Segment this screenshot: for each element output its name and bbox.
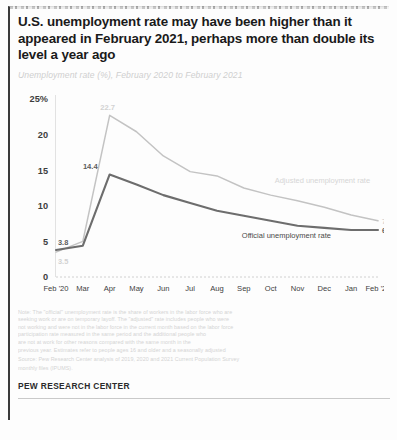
chart-title: U.S. unemployment rate may have been hig… bbox=[18, 14, 384, 64]
source-line-2: monthly files (IPUMS). bbox=[18, 365, 380, 373]
note-line-2: not working and were not in the labor fo… bbox=[18, 324, 380, 332]
svg-text:14.4: 14.4 bbox=[83, 162, 99, 171]
svg-text:5: 5 bbox=[43, 236, 48, 246]
note-line-3: participation rate measured in the same … bbox=[18, 331, 380, 339]
y-axis: 0510152025% bbox=[30, 94, 378, 282]
svg-text:Adjusted unemployment rate: Adjusted unemployment rate bbox=[275, 176, 370, 185]
svg-text:Sep: Sep bbox=[237, 284, 251, 293]
x-axis: Feb '20MarAprMayJunJulAugSepOctNovDecJan… bbox=[43, 284, 384, 293]
svg-text:Official unemployment rate: Official unemployment rate bbox=[242, 230, 331, 239]
svg-text:0: 0 bbox=[43, 272, 48, 282]
svg-text:Dec: Dec bbox=[318, 284, 332, 293]
scan-noise-strip bbox=[10, 6, 389, 9]
chart-page: U.S. unemployment rate may have been hig… bbox=[0, 0, 397, 440]
brand-label: PEW RESEARCH CENTER bbox=[18, 381, 384, 391]
svg-text:3.8: 3.8 bbox=[58, 237, 68, 246]
svg-text:Jun: Jun bbox=[157, 284, 169, 293]
chart-content: U.S. unemployment rate may have been hig… bbox=[18, 14, 384, 399]
line-chart: 0510152025% Feb '20MarAprMayJunJulAugSep… bbox=[18, 87, 384, 299]
svg-text:3.5: 3.5 bbox=[58, 257, 68, 266]
svg-text:15: 15 bbox=[38, 165, 48, 175]
svg-text:Oct: Oct bbox=[265, 284, 278, 293]
source-line-1: Source: Pew Research Center analysis of … bbox=[18, 356, 380, 364]
note-line-1: seeking work or are on temporary layoff.… bbox=[18, 316, 380, 324]
svg-text:22.7: 22.7 bbox=[100, 103, 115, 112]
note-line-0: Note: The "official" unemployment rate i… bbox=[18, 309, 380, 317]
chart-subtitle: Unemployment rate (%), February 2020 to … bbox=[18, 70, 384, 81]
note-line-4: are not at work for other reasons compar… bbox=[18, 339, 380, 347]
chart-footnotes: Note: The "official" unemployment rate i… bbox=[18, 309, 380, 373]
svg-text:10: 10 bbox=[38, 201, 48, 211]
svg-text:Jan: Jan bbox=[345, 284, 357, 293]
svg-text:20: 20 bbox=[38, 130, 48, 140]
svg-text:Jul: Jul bbox=[185, 284, 195, 293]
svg-text:May: May bbox=[129, 284, 144, 293]
svg-text:Apr: Apr bbox=[104, 284, 116, 293]
svg-text:Feb '20: Feb '20 bbox=[43, 284, 68, 293]
svg-text:Nov: Nov bbox=[291, 284, 305, 293]
chart-canvas: 0510152025% Feb '20MarAprMayJunJulAugSep… bbox=[18, 87, 384, 299]
svg-text:25%: 25% bbox=[30, 94, 48, 104]
svg-text:6.6: 6.6 bbox=[382, 226, 384, 235]
source-line-0: previous year. Estimates refer to people… bbox=[18, 347, 380, 355]
brand-divider bbox=[18, 398, 390, 399]
svg-text:7.9: 7.9 bbox=[382, 216, 384, 225]
svg-text:Aug: Aug bbox=[210, 284, 224, 293]
svg-text:Mar: Mar bbox=[76, 284, 90, 293]
svg-text:Feb '21: Feb '21 bbox=[365, 284, 384, 293]
